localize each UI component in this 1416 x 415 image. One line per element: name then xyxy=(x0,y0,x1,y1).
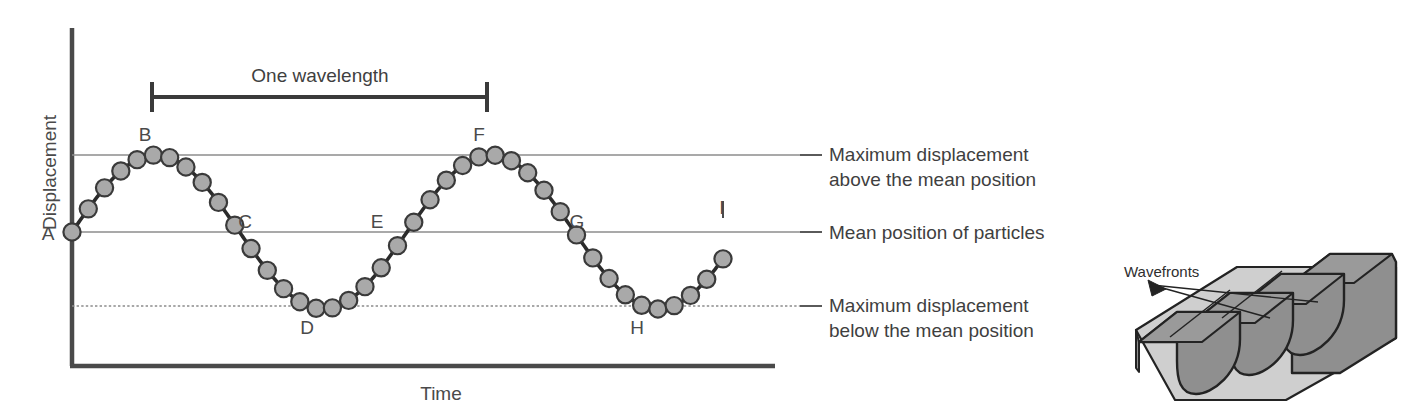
wave-particle xyxy=(96,179,113,196)
annotation-max-below-line2: below the mean position xyxy=(829,320,1034,341)
wave-particle xyxy=(291,293,308,310)
wave-point-label-h: H xyxy=(630,317,644,338)
wave-particle xyxy=(438,172,455,189)
wave-point-label-e: E xyxy=(371,211,384,232)
wave-particle xyxy=(308,300,325,317)
annotation-max-above-line1: Maximum displacement xyxy=(829,144,1029,165)
wave-point-label-d: D xyxy=(300,317,314,338)
wave-particle xyxy=(177,158,194,175)
wave-particle xyxy=(356,278,373,295)
wave-particle xyxy=(373,259,390,276)
wave-particle xyxy=(259,262,276,279)
wave-particle xyxy=(242,240,259,257)
wavefronts-leader-arrow xyxy=(1148,280,1166,296)
wave-particle xyxy=(145,146,162,163)
wave-point-label-b: B xyxy=(139,124,152,145)
wave-particle xyxy=(600,270,617,287)
wave-particle xyxy=(535,182,552,199)
reference-lines xyxy=(72,155,800,306)
wave-particle xyxy=(584,249,601,266)
wave-particle xyxy=(129,151,146,168)
wave-point-label-g: G xyxy=(570,211,585,232)
wave-particle xyxy=(405,214,422,231)
wave-particle xyxy=(340,292,357,309)
x-axis-title: Time xyxy=(420,383,462,404)
y-axis-title: Displacement xyxy=(39,114,60,230)
wavelength-label: One wavelength xyxy=(251,65,388,86)
wave-particle xyxy=(80,200,97,217)
wave-particle xyxy=(633,297,650,314)
wave-particle xyxy=(194,174,211,191)
wave-particle xyxy=(519,164,536,181)
wave-particle xyxy=(63,223,80,240)
wave-particle xyxy=(503,152,520,169)
annotation-mean-line1: Mean position of particles xyxy=(829,222,1044,243)
wave-point-label-a: A xyxy=(42,223,55,244)
wave-particle xyxy=(682,287,699,304)
wave-particle xyxy=(714,250,731,267)
wave-particle xyxy=(552,203,569,220)
wave-particle xyxy=(470,148,487,165)
wave-particle xyxy=(389,237,406,254)
annotation-max-below-line1: Maximum displacement xyxy=(829,295,1029,316)
wavefronts-illustration: Wavefronts xyxy=(1124,254,1396,400)
wave-particle xyxy=(698,271,715,288)
wavefronts-label: Wavefronts xyxy=(1124,263,1199,280)
wavefront-left-face xyxy=(1136,330,1139,372)
annotation-max-below: Maximum displacement below the mean posi… xyxy=(800,295,1034,341)
wave-point-label-c: C xyxy=(238,211,252,232)
wave-particle xyxy=(421,191,438,208)
wave-particle xyxy=(454,157,471,174)
wave-particle xyxy=(617,286,634,303)
wave-particle xyxy=(649,300,666,317)
wave-particle xyxy=(161,149,178,166)
annotation-max-above: Maximum displacement above the mean posi… xyxy=(800,144,1036,190)
annotation-max-above-line2: above the mean position xyxy=(829,169,1036,190)
wave-particle xyxy=(210,194,227,211)
wave-particle xyxy=(324,299,341,316)
wavelength-bracket xyxy=(152,82,487,112)
annotation-mean: Mean position of particles xyxy=(800,222,1044,243)
wave-point-label-f: F xyxy=(473,124,485,145)
wave-particle xyxy=(487,147,504,164)
wave-particle xyxy=(112,162,129,179)
wave-particle xyxy=(666,297,683,314)
wave-particle xyxy=(275,280,292,297)
wave-diagram-figure: Displacement Time One wavelength ABCDEFG… xyxy=(0,0,1416,415)
